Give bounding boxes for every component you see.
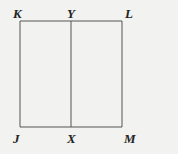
label-m: M xyxy=(123,131,136,146)
label-l: L xyxy=(124,6,133,21)
label-x: X xyxy=(66,131,76,146)
rectangle-diagram: K Y L J X M xyxy=(0,0,178,154)
label-k: K xyxy=(12,6,23,21)
label-y: Y xyxy=(67,6,76,21)
label-j: J xyxy=(12,131,20,146)
